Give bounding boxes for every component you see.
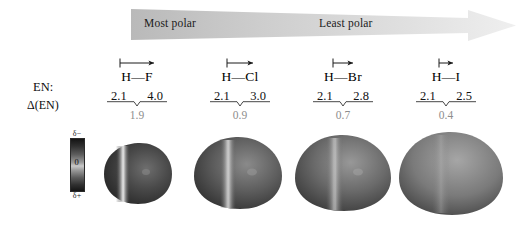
arrow-label-most-polar: Most polar: [144, 17, 196, 29]
molecule-column-hf: H—F 2.1 4.0 1.9: [82, 56, 192, 121]
delta-en-value: 0.4: [391, 109, 501, 121]
scale-label-delta-positive: δ+: [68, 191, 86, 200]
molecule-column-hbr: H—Br 2.1 2.8 0.7: [288, 56, 398, 121]
en-value-row: 2.1 2.8: [288, 86, 398, 103]
esp-map-hcl: [190, 130, 294, 214]
en-value-row: 2.1 4.0: [82, 86, 192, 103]
delta-en-value: 0.9: [185, 109, 295, 121]
figure-canvas: Most polar Least polar EN: Δ(EN) δ− 0 δ+…: [0, 0, 522, 228]
underbrace-icon: [312, 101, 374, 108]
dipole-arrow-icon: [82, 56, 192, 70]
dipole-arrow-icon: [391, 56, 501, 70]
dipole-arrow-icon: [185, 56, 295, 70]
molecule-formula: H—I: [391, 69, 501, 84]
underbrace-icon: [106, 101, 168, 108]
molecule-formula: H—Cl: [185, 69, 295, 84]
en-value-row: 2.1 3.0: [185, 86, 295, 103]
underbrace-icon: [209, 101, 271, 108]
delta-en-value: 1.9: [82, 109, 192, 121]
delta-en-value: 0.7: [288, 109, 398, 121]
row-label-en: EN:: [33, 80, 53, 95]
dipole-arrow-icon: [288, 56, 398, 70]
molecule-column-hi: H—I 2.1 2.5 0.4: [391, 56, 501, 121]
row-label-delta-en: Δ(EN): [27, 98, 59, 113]
underbrace-icon: [415, 101, 477, 108]
molecule-column-hcl: H—Cl 2.1 3.0 0.9: [185, 56, 295, 121]
esp-map-hi: [396, 126, 514, 220]
esp-map-hbr: [292, 128, 402, 216]
scale-label-delta-negative: δ−: [68, 129, 86, 138]
en-value-row: 2.1 2.5: [391, 86, 501, 103]
esp-map-hf: [96, 136, 184, 208]
scale-label-zero: 0: [70, 157, 83, 167]
arrow-label-least-polar: Least polar: [319, 17, 373, 29]
molecule-formula: H—F: [82, 69, 192, 84]
molecule-formula: H—Br: [288, 69, 398, 84]
